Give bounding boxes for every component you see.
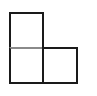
square-bottom-right (42, 47, 78, 84)
square-bottom-left (9, 47, 44, 84)
square-top (9, 12, 44, 49)
